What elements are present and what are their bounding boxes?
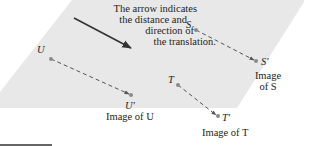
caption-u: Image of U bbox=[106, 111, 154, 122]
label-u-prime: U′ bbox=[125, 100, 135, 111]
point-t bbox=[176, 83, 180, 87]
annotation-line-1: The arrow indicates bbox=[82, 3, 197, 14]
point-u-prime bbox=[129, 93, 133, 97]
point-s-prime bbox=[254, 59, 258, 63]
label-u: U bbox=[37, 44, 45, 55]
label-s-prime: S′ bbox=[261, 56, 269, 67]
caption-s-line2: of S bbox=[248, 81, 288, 92]
annotation-line-4: the translation. bbox=[82, 36, 216, 47]
point-s bbox=[194, 28, 198, 32]
point-u bbox=[49, 57, 53, 61]
point-t-prime bbox=[216, 114, 220, 118]
label-t-prime: T′ bbox=[222, 112, 230, 123]
label-s: S bbox=[186, 19, 191, 30]
label-t: T bbox=[168, 74, 174, 85]
caption-t: Image of T bbox=[202, 127, 248, 138]
annotation-line-2: the distance and bbox=[82, 14, 187, 25]
annotation-line-3: direction of bbox=[82, 25, 194, 36]
caption-s-line1: Image bbox=[248, 70, 288, 81]
